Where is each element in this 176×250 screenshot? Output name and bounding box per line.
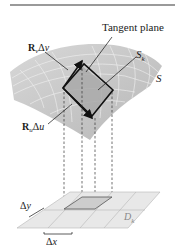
domain-plane xyxy=(17,192,160,228)
top-scan-strip xyxy=(10,4,175,6)
label-ru-du: RuΔu xyxy=(22,121,44,134)
label-delta-y: Δy xyxy=(20,200,31,211)
label-s: S xyxy=(156,72,162,84)
label-tangent-plane: Tangent plane xyxy=(102,21,164,33)
surface-area-diagram: Tangent plane RvΔv Sk S RuΔu Δy Δx Dk xyxy=(0,0,176,250)
label-delta-x: Δx xyxy=(46,236,57,247)
delta-x-brace xyxy=(44,232,72,234)
